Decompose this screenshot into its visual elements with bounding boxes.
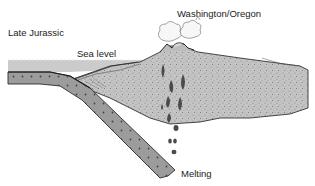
melting-label: Melting <box>181 169 212 179</box>
era-label: Late Jurassic <box>8 28 64 38</box>
region-label: Washington/Oregon <box>177 9 261 19</box>
sea-level-label: Sea level <box>77 49 116 59</box>
eruption-clouds <box>158 16 201 41</box>
